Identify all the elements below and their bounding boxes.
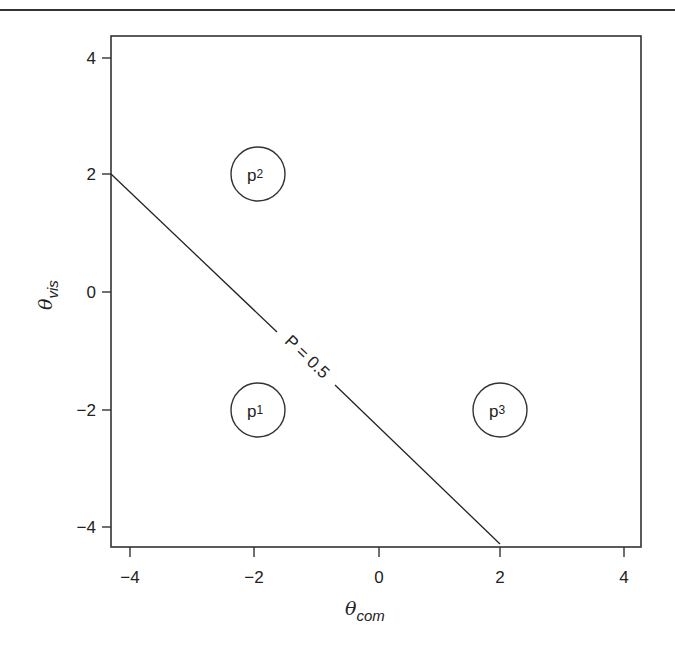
point-p3: p3 [473,383,527,437]
x-tick-label: 0 [374,568,383,587]
x-tick-label: −4 [120,568,139,587]
y-axis [102,58,111,527]
y-tick-label: 2 [87,165,96,184]
point-p2: p2 [231,147,285,201]
x-tick-labels: −4 −2 0 2 4 [120,568,628,587]
y-axis-title: θvis [34,280,61,310]
plot-frame [111,36,641,547]
chart: −4 −2 0 2 4 4 2 0 −2 −4 θcom θvis P = 0.… [0,0,675,648]
point-p1: p1 [231,383,285,437]
svg-text:p3: p3 [489,402,505,421]
y-tick-label: 4 [87,49,96,68]
decision-line-label: P = 0.5 [281,331,333,382]
x-tick-label: 2 [495,568,504,587]
y-tick-label: −2 [77,401,96,420]
svg-text:p2: p2 [247,166,263,185]
x-axis-title: θcom [345,597,385,624]
y-tick-label: −4 [77,518,96,537]
y-tick-labels: 4 2 0 −2 −4 [77,49,96,537]
x-tick-label: −2 [244,568,263,587]
svg-text:p1: p1 [247,402,263,421]
x-axis [130,547,624,557]
x-tick-label: 4 [619,568,628,587]
y-tick-label: 0 [87,283,96,302]
